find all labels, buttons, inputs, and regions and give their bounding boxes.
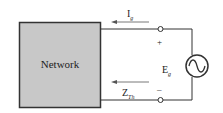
current-label: Ig	[127, 8, 133, 21]
source-label: Eg	[162, 64, 171, 77]
plus-sign: +	[157, 37, 162, 47]
minus-sign: –	[156, 84, 162, 94]
network-diagram: Network Ig ZTh + – Eg	[0, 0, 223, 113]
impedance-label: ZTh	[122, 87, 134, 100]
top-terminal	[158, 27, 163, 32]
current-arrowhead-icon	[111, 20, 117, 24]
impedance-arrowhead-icon	[111, 80, 117, 84]
bottom-terminal	[158, 98, 163, 103]
network-label: Network	[41, 58, 80, 70]
